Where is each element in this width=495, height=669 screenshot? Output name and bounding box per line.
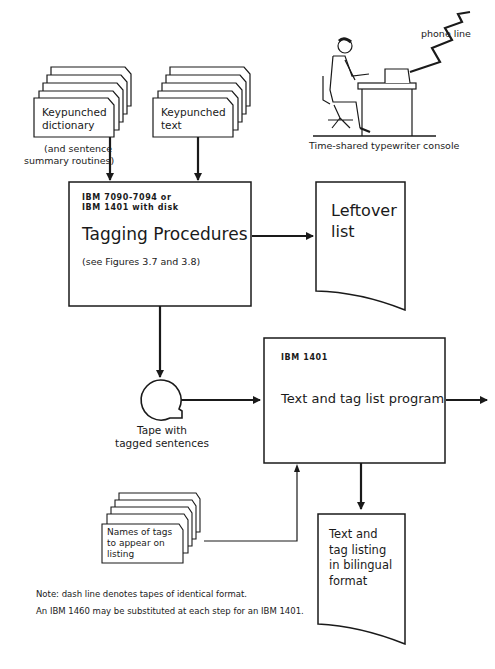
note-line: (and sentence [44,143,104,155]
program-title: Text and tag list program [281,391,444,407]
machine-line: IBM 7090-7094 or [82,193,179,203]
edge-tagnames-to-program [204,468,297,541]
bilingual-listing-label: Text and tag listing in bilingual format [329,527,392,589]
label-line: tagged sentences [112,437,212,450]
label-line: tag listing [329,543,392,559]
phone-line-label: phone line [421,28,471,40]
label-line: Keypunched [161,106,226,119]
label-line: Tape with [112,424,212,437]
label-line: listing [107,549,172,560]
label-line: dictionary [42,119,107,132]
tag-names-label: Names of tags to appear on listing [107,527,172,559]
machine-line: IBM 1401 with disk [82,203,179,213]
note-line: summary routines) [24,155,104,167]
magnetic-tape-icon [141,380,182,420]
label-line: text [161,119,226,132]
dictionary-cards-label: Keypunched dictionary [42,106,107,132]
label-line: to appear on [107,538,172,549]
tagging-machine-label: IBM 7090-7094 or IBM 1401 with disk [82,193,179,213]
diagram-notes: Note: dash line denotes tapes of identic… [36,586,304,620]
leftover-label: Leftover list [331,201,397,243]
label-line: in bilingual [329,558,392,574]
console-caption: Time-shared typewriter console [309,140,459,152]
program-machine-label: IBM 1401 [281,353,328,363]
tape-label: Tape with tagged sentences [112,424,212,450]
note-line: An IBM 1460 may be substituted at each s… [36,603,304,620]
label-line: Keypunched [42,106,107,119]
label-line: Text and [329,527,392,543]
dictionary-cards-note: (and sentence summary routines) [44,143,104,167]
label-line: Leftover [331,201,397,222]
label-line: list [331,222,397,243]
flowchart-canvas [0,0,495,669]
text-cards-label: Keypunched text [161,106,226,132]
arrowhead-icon [294,464,300,472]
note-line: Note: dash line denotes tapes of identic… [36,586,304,603]
label-line: format [329,574,392,590]
tagging-subtitle: (see Figures 3.7 and 3.8) [82,256,200,268]
tagging-title: Tagging Procedures [82,224,248,245]
label-line: Names of tags [107,527,172,538]
